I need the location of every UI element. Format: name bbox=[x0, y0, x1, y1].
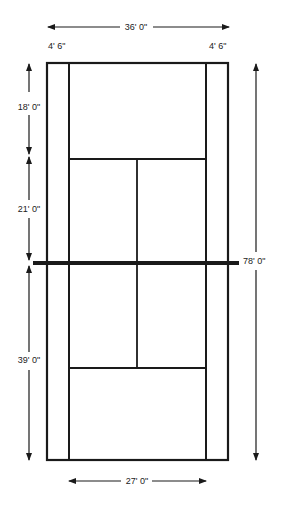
tennis-court-diagram: 36' 0" 4' 6" 4' 6" 18' 0" 21' 0" 39' 0" … bbox=[0, 0, 284, 506]
label-service-box: 21' 0" bbox=[18, 204, 40, 214]
label-alley-left: 4' 6" bbox=[48, 41, 65, 51]
court bbox=[33, 63, 239, 460]
label-total-width: 36' 0" bbox=[125, 22, 147, 32]
label-total-length: 78' 0" bbox=[243, 256, 265, 266]
label-half-court: 39' 0" bbox=[18, 355, 40, 365]
label-backcourt: 18' 0" bbox=[18, 102, 40, 112]
label-alley-right: 4' 6" bbox=[209, 41, 226, 51]
label-singles-width: 27' 0" bbox=[126, 476, 148, 486]
